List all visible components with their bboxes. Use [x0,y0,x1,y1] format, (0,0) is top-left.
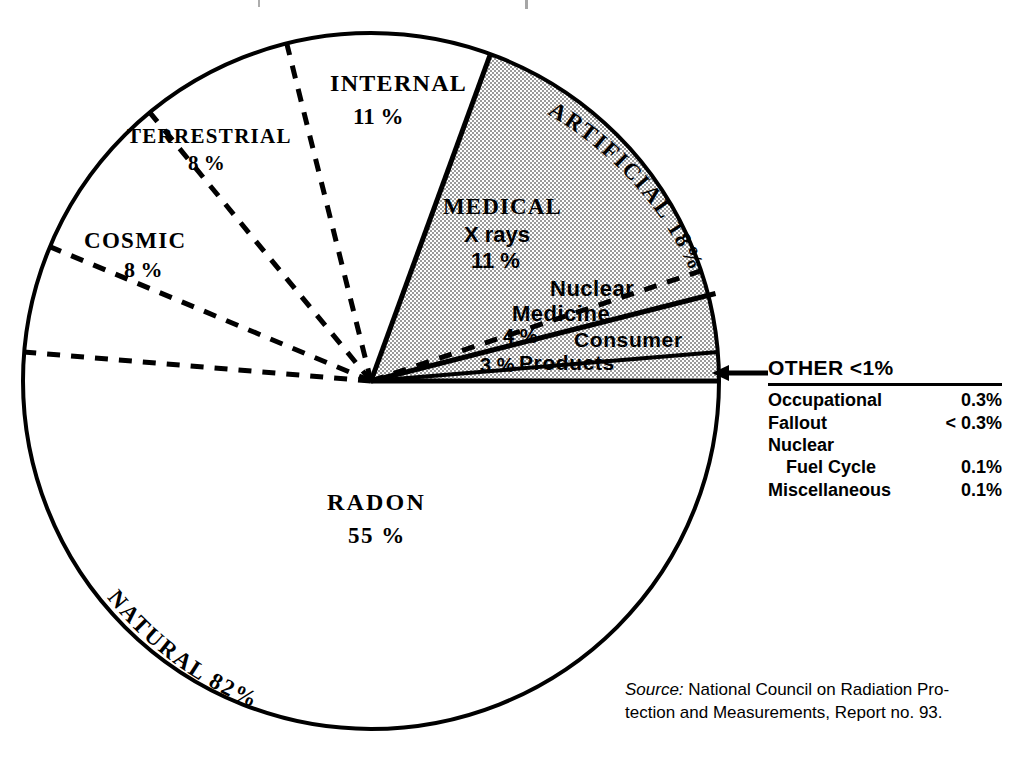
cropped-title-mark [525,0,528,9]
sector-label-medical: MEDICAL [443,194,562,220]
natural-group-caption: NATURAL 82% [103,585,263,713]
source-line2: tection and Measurements, Report no. 93. [625,703,943,722]
sector-label-consumer-line2: Products [519,351,615,375]
sector-label-radon: RADON [327,489,426,516]
sector-label-consumer-line1: Consumer [574,328,683,352]
sector-label-internal: INTERNAL [330,70,467,97]
other-legend: OTHER <1% Occupational 0.3% Fallout < 0.… [768,356,1006,502]
source-line1: National Council on Radiation Pro- [684,680,950,699]
legend-row-value: < 0.3% [928,412,1002,435]
dash-cosmic-radon [24,352,372,381]
cropped-title-mark [258,0,260,7]
sector-pct-cosmic: 8 % [124,257,163,283]
sector-pct-consumer: 3 % [480,354,514,377]
legend-row-name: Nuclear [768,435,928,456]
table-row: Fallout < 0.3% [768,412,1002,435]
legend-row-name: Fallout [768,412,928,435]
table-row: Miscellaneous 0.1% [768,479,1002,502]
sector-label-nuclear-medicine-line2: Medicine [512,301,610,327]
source-note: Source: National Council on Radiation Pr… [625,678,1013,724]
sector-pct-terrestrial: 8 % [188,151,225,176]
sector-pct-medical: 11 % [471,248,520,274]
dash-terrestrial-cosmic [50,247,371,381]
sector-label-nuclear-medicine-line1: Nuclear [550,276,634,302]
legend-row-value [928,435,1002,456]
sector-pct-radon: 55 % [348,523,406,549]
sector-pct-nuclear-medicine: 4 % [503,325,537,348]
legend-row-name: Occupational [768,389,928,412]
source-prefix: Source: [625,680,684,699]
legend-title: OTHER <1% [768,356,1006,383]
sector-sublabel-medical-xrays: X rays [464,222,530,248]
table-row: Nuclear [768,435,1002,456]
sector-label-terrestrial: TERRESTRIAL [127,124,292,149]
sector-label-cosmic: COSMIC [84,228,186,254]
legend-table: Occupational 0.3% Fallout < 0.3% Nuclear… [768,389,1002,502]
legend-row-name: Fuel Cycle [768,456,928,479]
legend-row-name: Miscellaneous [768,479,928,502]
legend-row-value: 0.1% [928,479,1002,502]
table-row: Occupational 0.3% [768,389,1002,412]
left-arrow-icon [712,358,770,388]
figure-canvas: NATURAL 82% ARTIFICIAL 18% INTERNAL 11 %… [0,0,1013,757]
natural-subdivisions [24,43,372,381]
legend-divider [768,383,1002,386]
legend-row-value: 0.3% [928,389,1002,412]
sector-pct-internal: 11 % [353,104,403,130]
legend-row-value: 0.1% [928,456,1002,479]
table-row: Fuel Cycle 0.1% [768,456,1002,479]
